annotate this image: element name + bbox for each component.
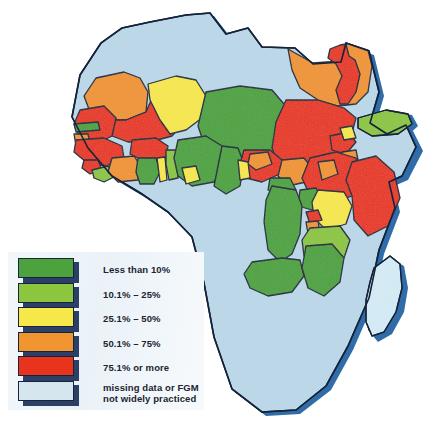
figure-canvas: Less than 10%10.1% – 25%25.1% – 50%50.1%… <box>0 0 443 422</box>
legend-label-10.1-25: 10.1% – 25% <box>103 289 161 301</box>
legend-swatch-75.1-100 <box>18 356 74 376</box>
legend-label-50.1-75: 50.1% – 75% <box>103 338 161 350</box>
legend-label-0-10: Less than 10% <box>103 264 170 276</box>
legend-item-25.1-50[interactable]: 25.1% – 50% <box>18 307 204 331</box>
region-ghana <box>136 158 160 184</box>
legend-item-50.1-75[interactable]: 50.1% – 75% <box>18 332 204 356</box>
legend-label-missing: missing data or FGM not widely practiced <box>103 382 199 404</box>
legend-swatch-missing <box>18 381 74 401</box>
legend-label-75.1-100: 75.1% or more <box>103 362 169 374</box>
legend-rows: Less than 10%10.1% – 25%25.1% – 50%50.1%… <box>8 252 204 410</box>
legend-swatch-wrap-75.1-100 <box>18 356 78 380</box>
legend-swatch-50.1-75 <box>18 332 74 352</box>
legend-item-0-10[interactable]: Less than 10% <box>18 258 204 282</box>
legend-swatch-wrap-missing <box>18 381 78 405</box>
region-car-yellow <box>238 160 250 180</box>
legend-swatch-10.1-25 <box>18 283 74 303</box>
legend-swatch-wrap-25.1-50 <box>18 307 78 331</box>
map-legend: Less than 10%10.1% – 25%25.1% – 50%50.1%… <box>8 252 204 410</box>
legend-label-25.1-50: 25.1% – 50% <box>103 313 161 325</box>
legend-swatch-wrap-10.1-25 <box>18 283 78 307</box>
legend-item-missing[interactable]: missing data or FGM not widely practiced <box>18 381 204 405</box>
legend-swatch-wrap-50.1-75 <box>18 332 78 356</box>
region-nigeria-enclave <box>182 166 200 184</box>
legend-swatch-0-10 <box>18 258 74 278</box>
legend-swatch-25.1-50 <box>18 307 74 327</box>
legend-swatch-wrap-0-10 <box>18 258 78 282</box>
legend-item-75.1-100[interactable]: 75.1% or more <box>18 356 204 380</box>
legend-item-10.1-25[interactable]: 10.1% – 25% <box>18 283 204 307</box>
